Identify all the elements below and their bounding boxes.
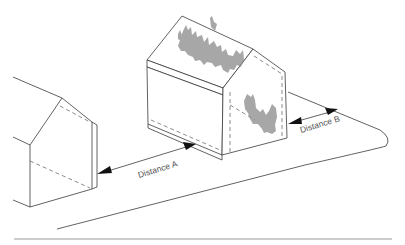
distance-a-label: Distance A xyxy=(137,158,179,180)
burning-building xyxy=(147,16,287,160)
distance-b-label: Distance B xyxy=(299,113,342,135)
neighbouring-building xyxy=(13,77,97,207)
diagram-canvas: Distance A Distance B xyxy=(0,0,405,245)
